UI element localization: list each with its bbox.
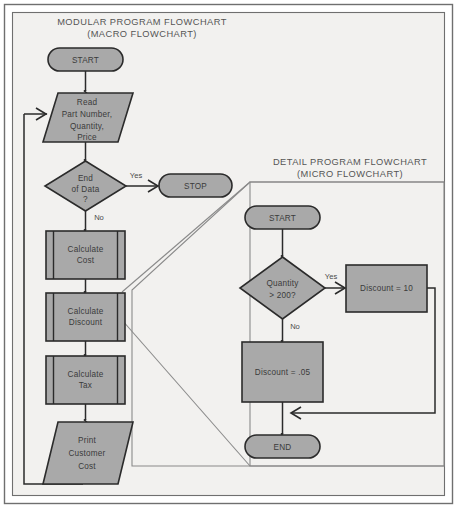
flowchart-figure: MODULAR PROGRAM FLOWCHART (MACRO FLOWCHA… [0,0,457,508]
micro-decision-line1: Quantity [266,279,299,288]
macro-decision-line2: of Data [72,185,100,194]
macro-edge-no-label: No [94,213,104,222]
macro-print-line3: Cost [78,462,96,471]
macro-calc-discount-line1: Calculate [68,307,104,316]
micro-start-label: START [269,214,296,223]
flowchart-canvas: MODULAR PROGRAM FLOWCHART (MACRO FLOWCHA… [0,0,457,508]
macro-start-label: START [72,56,99,65]
macro-print-line1: Print [78,436,96,445]
macro-read-line3: Quantity, [70,122,104,131]
micro-discount-yes-label: Discount = 10 [360,284,413,293]
micro-decision-line2: > 200? [269,291,296,300]
macro-calc-tax-line2: Tax [79,381,92,390]
macro-calc-cost-line1: Calculate [68,245,104,254]
micro-title-line1: DETAIL PROGRAM FLOWCHART [273,157,427,167]
macro-read-line1: Read [77,98,98,107]
macro-calc-discount-node [46,293,125,341]
macro-stop-label: STOP [184,182,207,191]
macro-calc-cost-line2: Cost [77,256,95,265]
macro-calc-tax-node [46,356,125,404]
macro-read-line4: Price [77,133,97,142]
macro-decision-line3: ? [83,195,88,204]
macro-calc-discount-line2: Discount [69,318,103,327]
micro-discount-no-label: Discount = .05 [255,368,311,377]
macro-edge-yes-label: Yes [130,171,143,180]
macro-read-line2: Part Number, [62,110,113,119]
macro-title-line2: (MACRO FLOWCHART) [87,29,197,39]
macro-calc-cost-node [46,231,125,279]
macro-calc-tax-line1: Calculate [68,370,104,379]
macro-print-line2: Customer [68,449,105,458]
micro-title-line2: (MICRO FLOWCHART) [297,169,403,179]
micro-edge-yes-label: Yes [325,272,338,281]
micro-end-label: END [274,443,292,452]
macro-title-line1: MODULAR PROGRAM FLOWCHART [57,17,227,27]
micro-edge-no-label: No [290,322,300,331]
macro-decision-line1: End [78,174,93,183]
